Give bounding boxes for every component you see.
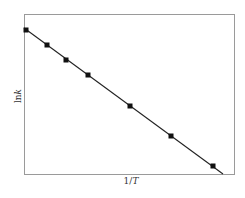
fit-line: [24, 28, 223, 174]
data-point-marker: [211, 164, 216, 169]
data-point-marker: [128, 104, 133, 109]
y-axis-label: lnk: [10, 86, 26, 106]
x-axis-label-var: T: [132, 176, 138, 186]
data-point-marker: [64, 58, 69, 63]
chart-svg: [0, 0, 245, 198]
plot-frame: [25, 15, 235, 175]
data-point-marker: [86, 73, 91, 78]
data-point-marker: [24, 28, 29, 33]
data-point-marker: [45, 43, 50, 48]
y-axis-label-prefix: ln: [13, 94, 23, 103]
y-axis-label-var: k: [13, 89, 23, 94]
data-point-marker: [169, 134, 174, 139]
x-axis-label: 1/T: [116, 176, 146, 186]
